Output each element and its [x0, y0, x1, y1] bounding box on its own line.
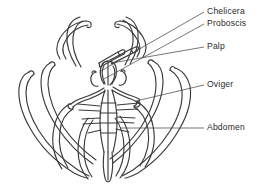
trunk-process-left-3: [88, 130, 101, 133]
trunk-process-left-2: [82, 118, 100, 119]
trunk-process-left-1b: [79, 110, 100, 111]
label-proboscis: Proboscis: [207, 19, 246, 28]
leg-left-inner-bottom: [78, 118, 88, 179]
label-oviger: Oviger: [207, 80, 233, 89]
leg-left-outer: [19, 72, 88, 178]
chelicera-right: [119, 71, 126, 85]
trunk-process-right-1b: [117, 109, 138, 110]
trunk-outline-left: [100, 90, 105, 152]
label-abdomen: Abdomen: [207, 123, 245, 132]
palp-left-seg2: [99, 63, 100, 67]
leg-right-fourth: [126, 17, 138, 64]
oviger-right: [113, 87, 140, 102]
leg-left-outer-tip: [29, 71, 34, 74]
trunk-process-right-2: [117, 117, 135, 118]
trunk-process-left-1: [78, 104, 100, 106]
trunk-outline-right: [112, 90, 117, 152]
label-chelicera: Chelicera: [207, 7, 245, 16]
oviger-left: [71, 88, 104, 104]
leg-left-second-tip: [50, 62, 55, 65]
label-palp: Palp: [207, 42, 225, 51]
chelicera-left: [91, 72, 98, 86]
body-outline-group: [19, 17, 191, 182]
leg-left-inner-bottom-edge: [84, 120, 93, 177]
oviger-left-knob: [68, 104, 73, 109]
sea-spider-diagram: [0, 0, 263, 192]
leg-right-second-tip: [148, 60, 153, 63]
diagram-screenshot: Chelicera Proboscis Palp Oviger Abdomen: [0, 0, 263, 192]
leg-right-outer-tip: [170, 67, 175, 70]
trunk-process-left-2b: [83, 123, 100, 124]
trunk-process-right-2b: [117, 122, 134, 123]
proboscis-right-edge: [112, 66, 115, 84]
leg-left-third-tip: [86, 21, 91, 28]
leader-line-oviger: [136, 85, 204, 101]
leg-right-fifth-inner: [134, 107, 149, 166]
